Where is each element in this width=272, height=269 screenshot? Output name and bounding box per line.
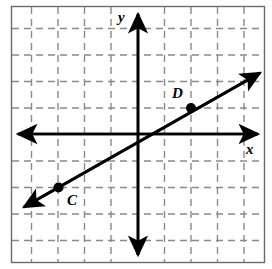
point-d-label: D <box>172 86 183 101</box>
point-c-label: C <box>67 193 77 208</box>
graph-figure: y x C D <box>0 0 272 269</box>
y-axis-label: y <box>118 10 125 25</box>
coordinate-plane-svg <box>0 0 272 269</box>
point-c-marker[interactable] <box>54 183 64 193</box>
x-axis-label: x <box>246 142 254 157</box>
point-d-marker[interactable] <box>186 103 196 113</box>
